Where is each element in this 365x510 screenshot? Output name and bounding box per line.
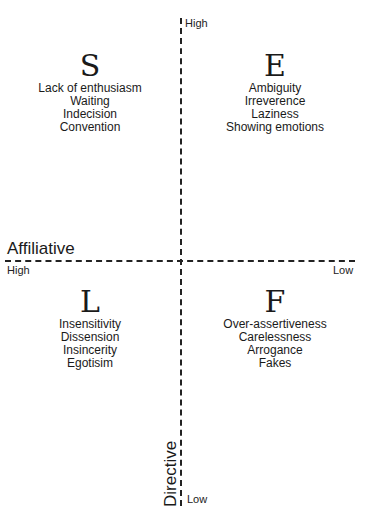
quadrant-e: E Ambiguity Irreverence Laziness Showing… — [185, 50, 365, 134]
directive-high-label: High — [185, 17, 208, 29]
quadrant-f: F Over-assertiveness Carelessness Arroga… — [185, 286, 365, 370]
directive-axis-title: Directive — [161, 441, 181, 507]
list-item: Egotisim — [0, 357, 180, 370]
quadrant-l: L Insensitivity Dissension Insincerity E… — [0, 286, 180, 370]
affiliative-low-label: Low — [333, 264, 353, 276]
affiliative-axis-title: Affiliative — [7, 239, 75, 259]
list-item: Fakes — [185, 357, 365, 370]
quadrant-letter: L — [0, 286, 180, 318]
directive-low-label: Low — [187, 493, 207, 505]
list-item: Showing emotions — [185, 121, 365, 134]
directive-axis-line — [180, 18, 182, 506]
quadrant-s: S Lack of enthusiasm Waiting Indecision … — [0, 50, 180, 134]
list-item: Convention — [0, 121, 180, 134]
quadrant-letter: E — [185, 50, 365, 82]
affiliative-axis-line — [5, 260, 355, 262]
affiliative-high-label: High — [7, 264, 30, 276]
quadrant-letter: F — [185, 286, 365, 318]
quadrant-letter: S — [0, 50, 180, 82]
